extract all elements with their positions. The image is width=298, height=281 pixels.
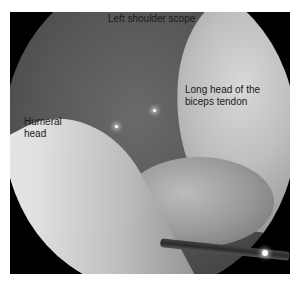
scope-circular-view (10, 12, 290, 274)
biceps-tendon-label: Long head of the biceps tendon (185, 84, 260, 108)
light-reflection (115, 125, 118, 128)
humeral-head-label: Humeral head (24, 116, 62, 140)
light-reflection (262, 250, 268, 256)
light-reflection (153, 109, 156, 112)
title-label: Left shoulder scope (108, 13, 195, 25)
arthroscopy-image (10, 12, 290, 274)
